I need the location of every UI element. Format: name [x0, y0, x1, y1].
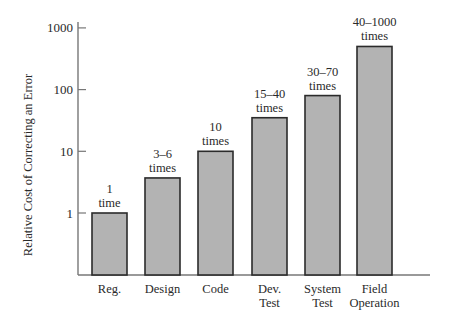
- x-category-label: System: [304, 282, 341, 296]
- bars: [92, 46, 392, 275]
- bar-annotation: 3–6: [153, 147, 172, 161]
- bar: [198, 151, 233, 275]
- bar: [145, 178, 180, 275]
- bar-annotation: 10: [209, 120, 222, 134]
- cost-of-error-bar-chart: 1101001000Relative Cost of Correcting an…: [0, 0, 453, 320]
- labels: 1timeReg.3–6timesDesign10timesCode15–40t…: [98, 15, 400, 310]
- bar-annotation: 1: [106, 182, 112, 196]
- y-tick-label: 100: [54, 82, 74, 97]
- y-tick-label: 1000: [47, 20, 73, 35]
- bar-annotation: times: [149, 161, 176, 175]
- bar-annotation: 15–40: [254, 87, 285, 101]
- y-tick-label: 1: [67, 206, 74, 221]
- x-category-label: Code: [202, 282, 229, 296]
- bar: [252, 118, 287, 275]
- x-category-label: Test: [259, 296, 280, 310]
- x-category-label: Test: [312, 296, 333, 310]
- bar: [92, 213, 127, 275]
- bar-annotation: times: [202, 134, 229, 148]
- bar-annotation: 40–1000: [353, 15, 397, 29]
- x-category-label: Reg.: [98, 282, 121, 296]
- bar-annotation: time: [98, 196, 121, 210]
- y-axis-label: Relative Cost of Correcting an Error: [21, 73, 35, 256]
- y-tick-label: 10: [60, 144, 73, 159]
- x-category-label: Field: [362, 282, 388, 296]
- bar: [357, 46, 392, 275]
- bar: [305, 96, 340, 275]
- bar-annotation: times: [309, 79, 336, 93]
- x-category-label: Operation: [350, 296, 401, 310]
- bar-annotation: times: [361, 29, 388, 43]
- bar-annotation: 30–70: [307, 65, 338, 79]
- x-category-label: Design: [145, 282, 181, 296]
- bar-annotation: times: [256, 101, 283, 115]
- x-category-label: Dev.: [258, 282, 281, 296]
